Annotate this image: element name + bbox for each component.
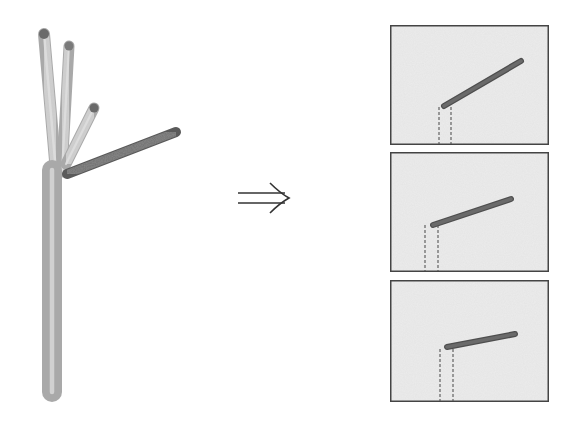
figure: Branching stick structure decomposed int…	[0, 0, 575, 424]
panel-2	[390, 152, 549, 272]
branch-tip	[90, 104, 99, 113]
panel-1	[390, 25, 549, 145]
panel-3	[390, 280, 549, 402]
branching-tree-diagram	[39, 29, 176, 392]
implies-arrow-icon	[238, 183, 289, 213]
branch-tip	[65, 42, 74, 51]
short-diagonal-branch	[66, 104, 99, 165]
branch-tip	[39, 29, 49, 39]
decomposition-panels	[390, 25, 549, 402]
left-vertical-branch	[39, 29, 56, 172]
diagram-canvas	[0, 0, 575, 424]
panel-background	[390, 25, 549, 145]
